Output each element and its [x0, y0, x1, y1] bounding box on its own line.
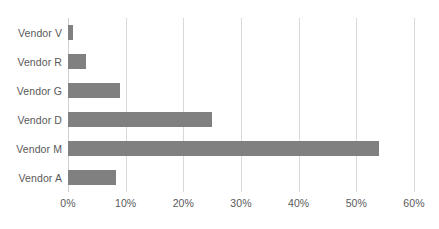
bar-vendor-r[interactable] [68, 54, 86, 69]
bar-row [68, 18, 414, 47]
x-tick-label-0: 0% [60, 197, 75, 209]
bar-row [68, 47, 414, 76]
x-tick-label-50: 50% [346, 197, 367, 209]
x-tick-label-60: 60% [403, 197, 424, 209]
bar-vendor-v[interactable] [68, 25, 73, 40]
bar-vendor-a[interactable] [68, 170, 116, 185]
bar-row [68, 163, 414, 192]
x-tick-label-10: 10% [115, 197, 136, 209]
bar-vendor-m[interactable] [68, 141, 379, 156]
category-label-vendor-v: Vendor V [0, 18, 62, 47]
category-axis: Vendor V Vendor R Vendor G Vendor D Vend… [0, 18, 62, 192]
value-axis: 0% 10% 20% 30% 40% 50% 60% [0, 197, 439, 215]
category-label-vendor-r: Vendor R [0, 47, 62, 76]
category-label-vendor-d: Vendor D [0, 105, 62, 134]
category-label-vendor-g: Vendor G [0, 76, 62, 105]
bar-vendor-g[interactable] [68, 83, 120, 98]
gridline-60 [414, 18, 415, 192]
bar-row [68, 76, 414, 105]
x-tick-label-20: 20% [173, 197, 194, 209]
x-tick-label-30: 30% [230, 197, 251, 209]
category-label-vendor-a: Vendor A [0, 163, 62, 192]
bar-chart: Vendor V Vendor R Vendor G Vendor D Vend… [0, 0, 439, 229]
category-label-vendor-m: Vendor M [0, 134, 62, 163]
bar-row [68, 105, 414, 134]
plot-area [68, 18, 414, 192]
bars-layer [68, 18, 414, 192]
bar-vendor-d[interactable] [68, 112, 212, 127]
bar-row [68, 134, 414, 163]
x-tick-label-40: 40% [288, 197, 309, 209]
